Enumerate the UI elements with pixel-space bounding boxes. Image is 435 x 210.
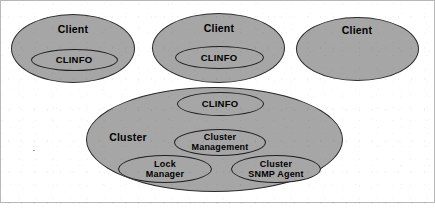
diagram-canvas: Client CLINFO Client CLINFO Client Clust… xyxy=(0,0,435,210)
client-node-3[interactable] xyxy=(296,17,419,81)
lock-manager-node[interactable] xyxy=(118,155,212,183)
client-node-1-clinfo[interactable] xyxy=(31,49,118,71)
scan-speck xyxy=(33,150,35,151)
frame-border-bottom xyxy=(0,202,435,203)
cluster-management-node[interactable] xyxy=(174,129,266,156)
client-node-2-clinfo[interactable] xyxy=(175,46,264,69)
cluster-clinfo-node[interactable] xyxy=(177,92,264,116)
frame-border-top xyxy=(0,0,435,1)
cluster-snmp-agent-node[interactable] xyxy=(231,155,321,183)
frame-border-left xyxy=(0,0,1,203)
